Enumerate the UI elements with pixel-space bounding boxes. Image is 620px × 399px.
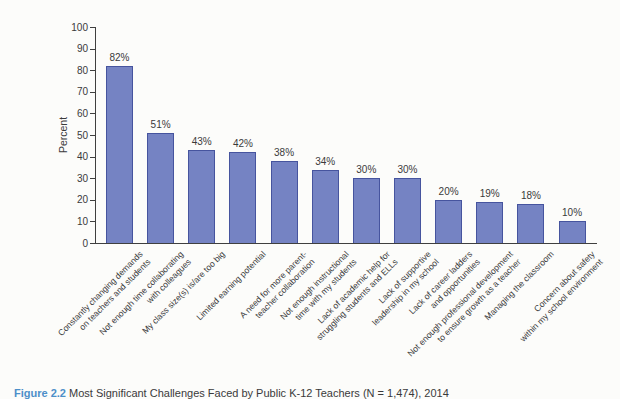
y-axis-tick-label: 0	[58, 237, 88, 250]
bar	[476, 202, 503, 243]
x-axis-label: Concern about safety within my school en…	[510, 249, 605, 344]
bar-value-label: 30%	[346, 164, 386, 175]
figure-caption-text: Most Significant Challenges Faced by Pub…	[66, 387, 449, 399]
figure-caption: Figure 2.2 Most Significant Challenges F…	[14, 387, 614, 399]
y-axis-tick-label: 80	[58, 64, 88, 77]
bar	[559, 221, 586, 243]
bar-value-label: 10%	[552, 207, 592, 218]
y-axis-tick	[90, 70, 95, 71]
bar-value-label: 20%	[429, 186, 469, 197]
y-axis-tick-label: 40	[58, 150, 88, 163]
bar-value-label: 30%	[387, 164, 427, 175]
bar-value-label: 38%	[264, 147, 304, 158]
y-axis-tick-label: 60	[58, 107, 88, 120]
bar-value-label: 51%	[141, 119, 181, 130]
y-axis-tick	[90, 92, 95, 93]
figure-caption-prefix: Figure 2.2	[14, 387, 66, 399]
bar-value-label: 42%	[223, 138, 263, 149]
bar	[312, 170, 339, 243]
y-axis-tick	[90, 157, 95, 158]
bar	[435, 200, 462, 243]
y-axis-tick	[90, 135, 95, 136]
y-axis-tick-label: 30	[58, 172, 88, 185]
y-axis-tick	[90, 113, 95, 114]
bar	[394, 178, 421, 243]
bar	[147, 133, 174, 243]
bar	[517, 204, 544, 243]
y-axis-tick	[90, 200, 95, 201]
y-axis-tick	[90, 243, 95, 244]
y-axis-line	[95, 27, 96, 244]
bar	[229, 152, 256, 243]
y-axis-tick-label: 70	[58, 85, 88, 98]
y-axis-tick-label: 50	[58, 129, 88, 142]
y-axis-tick-label: 100	[58, 21, 88, 34]
y-axis-tick-label: 90	[58, 42, 88, 55]
y-axis-tick	[90, 49, 95, 50]
x-axis-line	[95, 243, 597, 244]
bar-value-label: 18%	[511, 190, 551, 201]
bar	[271, 161, 298, 243]
y-axis-tick	[90, 221, 95, 222]
y-axis-tick	[90, 27, 95, 28]
bar-value-label: 82%	[100, 52, 140, 63]
bar	[188, 150, 215, 243]
bar-value-label: 19%	[470, 188, 510, 199]
bar	[106, 66, 133, 243]
y-axis-tick-label: 20	[58, 193, 88, 206]
bar-value-label: 43%	[182, 136, 222, 147]
y-axis-tick-label: 10	[58, 215, 88, 228]
bar	[353, 178, 380, 243]
bar-value-label: 34%	[305, 156, 345, 167]
y-axis-tick	[90, 178, 95, 179]
